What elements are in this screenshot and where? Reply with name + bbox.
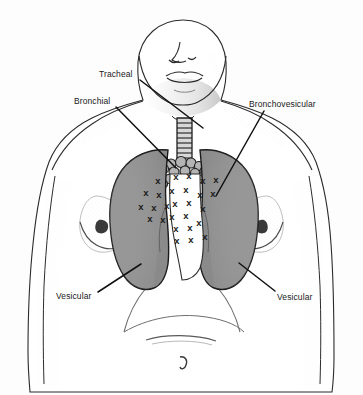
auscultation-marker: x — [138, 201, 144, 212]
auscultation-marker: x — [155, 175, 161, 186]
auscultation-marker: x — [151, 202, 157, 213]
label-vesicular-right: Vesicular — [277, 292, 312, 302]
auscultation-marker: x — [173, 171, 179, 182]
auscultation-marker: x — [186, 197, 192, 208]
auscultation-marker: x — [143, 187, 149, 198]
label-bronchial: Bronchial — [74, 96, 110, 106]
auscultation-marker: x — [202, 231, 208, 242]
auscultation-marker: x — [183, 184, 189, 195]
auscultation-marker: x — [156, 189, 162, 200]
anatomy-figure: xxxxxxxxxxxxxxxxxxxxxxxxxxx Tracheal Bro… — [0, 0, 363, 395]
auscultation-marker: x — [164, 200, 170, 211]
auscultation-marker: x — [188, 234, 194, 245]
auscultation-marker: x — [187, 222, 193, 233]
auscultation-marker: x — [186, 170, 192, 181]
auscultation-marker: x — [200, 175, 206, 186]
auscultation-marker: x — [173, 223, 179, 234]
auscultation-marker: x — [160, 214, 166, 225]
auscultation-marker: x — [213, 174, 219, 185]
auscultation-marker: x — [172, 198, 178, 209]
anatomy-illustration: xxxxxxxxxxxxxxxxxxxxxxxxxxx — [0, 0, 363, 395]
auscultation-marker: x — [169, 185, 175, 196]
auscultation-marker: x — [210, 188, 216, 199]
auscultation-marker: x — [147, 213, 153, 224]
label-vesicular-left: Vesicular — [56, 291, 91, 301]
label-bronchovesicular: Bronchovesicular — [249, 99, 316, 109]
auscultation-marker: x — [196, 217, 202, 228]
auscultation-marker: x — [200, 203, 206, 214]
label-tracheal: Tracheal — [99, 69, 133, 79]
auscultation-marker: x — [183, 210, 189, 221]
auscultation-marker: x — [197, 189, 203, 200]
auscultation-marker: x — [174, 235, 180, 246]
auscultation-marker: x — [169, 211, 175, 222]
